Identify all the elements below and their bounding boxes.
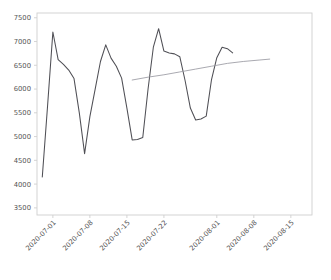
x-tick-label: 2020-07-22 bbox=[135, 219, 169, 253]
line-chart-svg: 350040004500500055006000650070007500 202… bbox=[0, 0, 331, 280]
plot-background bbox=[37, 13, 312, 215]
y-tick-label: 6500 bbox=[14, 62, 31, 70]
x-tick-label: 2020-07-01 bbox=[24, 219, 58, 253]
y-tick-label: 3500 bbox=[14, 204, 31, 212]
y-tick-label: 5000 bbox=[14, 133, 31, 141]
x-tick-label: 2020-08-01 bbox=[188, 219, 222, 253]
x-axis-tick-group: 2020-07-012020-07-082020-07-152020-07-22… bbox=[24, 215, 296, 252]
y-tick-label: 7000 bbox=[14, 38, 31, 46]
y-tick-label: 7500 bbox=[14, 14, 31, 22]
x-tick-label: 2020-07-08 bbox=[61, 219, 95, 253]
y-tick-label: 5500 bbox=[14, 109, 31, 117]
chart-figure: 350040004500500055006000650070007500 202… bbox=[0, 0, 331, 280]
y-tick-label: 4500 bbox=[14, 157, 31, 165]
x-tick-label: 2020-08-08 bbox=[225, 219, 259, 253]
x-tick-label: 2020-08-15 bbox=[262, 219, 296, 253]
y-tick-label: 6000 bbox=[14, 85, 31, 93]
y-axis-tick-group: 350040004500500055006000650070007500 bbox=[14, 14, 37, 212]
x-tick-label: 2020-07-15 bbox=[98, 219, 132, 253]
y-tick-label: 4000 bbox=[14, 181, 31, 189]
